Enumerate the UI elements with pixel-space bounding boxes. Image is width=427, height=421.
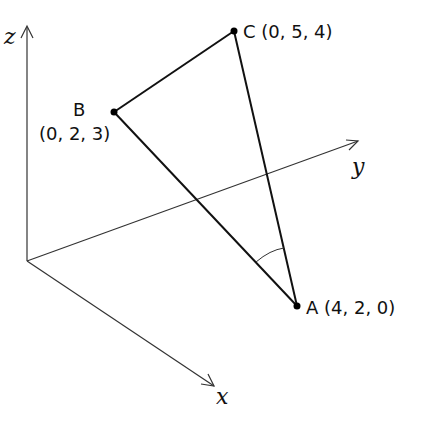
x-axis-label: x [216,384,229,409]
edge-bc [114,31,234,112]
point-b-name: B [73,99,85,120]
y-axis [27,141,358,261]
edge-ca [234,31,297,306]
point-c-label: C (0, 5, 4) [243,21,333,42]
y-axis-label: y [351,154,365,179]
point-a [294,303,301,310]
x-axis [27,261,214,386]
edge-ba [114,112,297,306]
point-a-label: A (4, 2, 0) [306,297,395,318]
diagram-canvas: z y x B (0, 2, 3) C (0, 5, 4) A (4, 2, 0… [0,0,427,421]
triangle-abc [114,31,297,306]
axes [21,26,358,386]
angle-bac-arc [256,248,284,262]
point-b [111,109,118,116]
point-b-coords: (0, 2, 3) [39,123,110,144]
point-c [231,28,238,35]
z-axis-label: z [3,24,16,49]
